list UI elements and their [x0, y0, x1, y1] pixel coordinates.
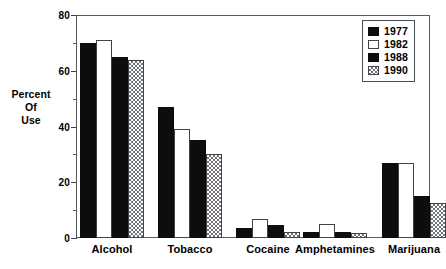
legend-swatch-icon-1988	[368, 53, 379, 62]
legend-item-1977: 1977	[368, 25, 408, 38]
y-tick-label-80: 80	[48, 10, 70, 21]
bar-amphetamines-1988	[335, 232, 351, 238]
bar-amphetamines-1977	[303, 232, 319, 238]
bar-cocaine-1990	[284, 232, 300, 238]
bar-amphetamines-1982	[319, 224, 335, 238]
bar-marijuana-1990	[430, 203, 446, 238]
bar-tobacco-1988	[190, 140, 206, 238]
bar-marijuana-1982	[398, 163, 414, 238]
legend-label-1977: 1977	[384, 26, 408, 37]
legend-label-1988: 1988	[384, 52, 408, 63]
y-axis-tick-labels: 020406080	[48, 0, 70, 269]
legend-label-1990: 1990	[384, 65, 408, 76]
legend-swatch-icon-1990	[368, 66, 379, 75]
bar-alcohol-1982	[96, 40, 112, 238]
legend-item-1990: 1990	[368, 64, 408, 77]
bar-tobacco-1990	[206, 154, 222, 238]
legend-swatch-icon-1977	[368, 27, 379, 36]
x-label-alcohol: Alcohol	[91, 243, 132, 255]
legend-swatch-icon-1982	[368, 40, 379, 49]
x-label-cocaine: Cocaine	[246, 243, 290, 255]
legend-label-1982: 1982	[384, 39, 408, 50]
bar-alcohol-1990	[128, 60, 144, 238]
bar-cocaine-1977	[236, 228, 252, 238]
bar-amphetamines-1990	[351, 233, 367, 238]
bar-cocaine-1982	[252, 219, 268, 239]
bar-alcohol-1988	[112, 57, 128, 238]
bar-tobacco-1977	[158, 107, 174, 238]
y-tick-label-0: 0	[48, 233, 70, 244]
bar-tobacco-1982	[174, 129, 190, 238]
x-label-amphetamines: Amphetamines	[295, 243, 375, 255]
tick-major	[71, 238, 77, 239]
legend-item-1982: 1982	[368, 38, 408, 51]
x-label-marijuana: Marijuana	[388, 243, 440, 255]
y-tick-label-60: 60	[48, 65, 70, 76]
x-label-tobacco: Tobacco	[167, 243, 212, 255]
legend-item-1988: 1988	[368, 51, 408, 64]
bar-marijuana-1988	[414, 196, 430, 238]
bar-alcohol-1977	[80, 43, 96, 238]
bar-marijuana-1977	[382, 163, 398, 238]
chart-legend: 1977198219881990	[362, 20, 415, 82]
bar-cocaine-1988	[268, 225, 284, 238]
y-tick-label-40: 40	[48, 121, 70, 132]
y-tick-label-20: 20	[48, 177, 70, 188]
